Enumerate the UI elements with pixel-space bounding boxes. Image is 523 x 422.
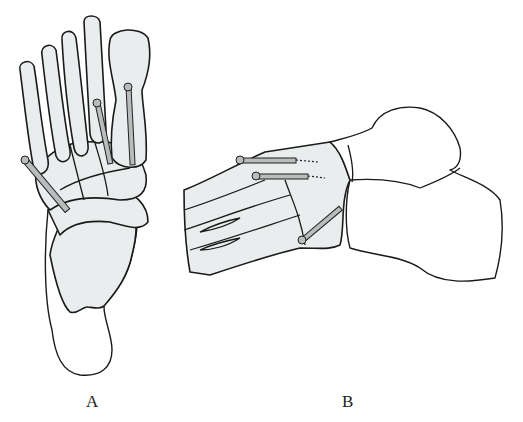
panel-label-b: B (342, 392, 353, 412)
panel-label-a: A (86, 392, 98, 412)
panel-a-foot-dorsal (20, 16, 150, 375)
foot-fixation-figure: A B (0, 0, 523, 422)
panel-b-foot-lateral (184, 107, 502, 281)
foot-illustration (0, 0, 523, 422)
